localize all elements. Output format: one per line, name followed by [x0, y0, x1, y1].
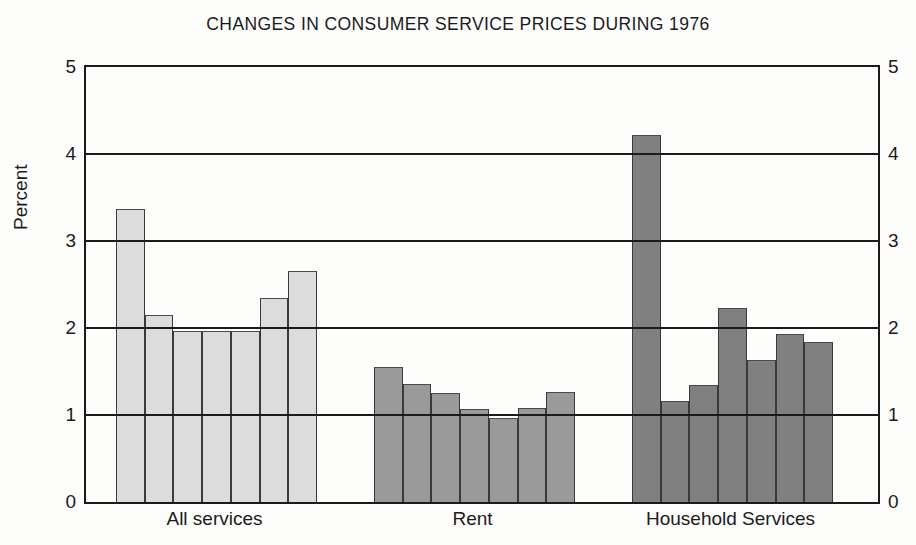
bar	[689, 385, 718, 502]
plot-area: 001122334455	[84, 65, 880, 504]
group-label-0: All services	[114, 508, 315, 530]
bar	[288, 271, 317, 502]
bar	[145, 315, 174, 502]
bar	[747, 360, 776, 502]
bar	[431, 393, 460, 502]
y-tick-left-2: 2	[65, 318, 76, 337]
y-tick-left-4: 4	[65, 144, 76, 163]
bar	[776, 334, 805, 502]
y-tick-left-0: 0	[65, 492, 76, 511]
bar	[661, 401, 690, 502]
bar	[804, 342, 833, 502]
y-tick-right-2: 2	[888, 318, 899, 337]
bar	[460, 409, 489, 502]
bar	[231, 331, 260, 502]
chart-title: CHANGES IN CONSUMER SERVICE PRICES DURIN…	[0, 14, 916, 35]
y-tick-right-5: 5	[888, 57, 899, 76]
group-label-2: Household Services	[630, 508, 831, 530]
y-tick-right-0: 0	[888, 492, 899, 511]
bar	[518, 408, 547, 502]
y-axis-label: Percent	[10, 165, 32, 230]
bar	[489, 418, 518, 502]
bar	[202, 331, 231, 502]
bars-layer	[86, 67, 878, 502]
bar	[116, 209, 145, 502]
bar	[260, 298, 289, 502]
bar	[718, 308, 747, 502]
bar	[546, 392, 575, 502]
y-tick-left-3: 3	[65, 231, 76, 250]
bar	[173, 331, 202, 502]
y-tick-right-4: 4	[888, 144, 899, 163]
y-tick-right-1: 1	[888, 405, 899, 424]
y-tick-left-1: 1	[65, 405, 76, 424]
bar	[632, 135, 661, 502]
bar	[403, 384, 432, 502]
chart-page: CHANGES IN CONSUMER SERVICE PRICES DURIN…	[0, 0, 916, 545]
bar	[374, 367, 403, 502]
y-tick-right-3: 3	[888, 231, 899, 250]
group-label-1: Rent	[372, 508, 573, 530]
y-tick-left-5: 5	[65, 57, 76, 76]
